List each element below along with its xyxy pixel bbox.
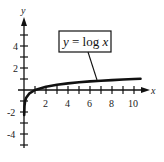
annotation-leader-line [88,52,97,80]
y-tick-label: 2 [13,63,18,74]
x-tick-label: 4 [65,98,70,109]
log-chart: y x 4 2 -2 -4 2 4 6 8 10 y = log x [0,0,164,162]
annotation-mid: = log [69,34,103,49]
annotation-x: x [101,34,108,49]
y-tick-label: -2 [7,107,15,118]
x-tick-label: 2 [43,98,48,109]
x-axis-label: x [150,85,156,96]
log-curve [24,79,140,115]
annotation-text: y = log x [61,34,108,49]
x-axis-arrow-icon [141,87,150,93]
y-axis-arrow-icon [21,17,27,26]
x-tick-label: 10 [128,98,138,109]
y-tick-label: -4 [7,129,15,140]
x-tick-label: 8 [109,98,114,109]
y-tick-label: 4 [13,41,18,52]
x-tick-label: 6 [87,98,92,109]
y-axis-label: y [20,5,26,16]
